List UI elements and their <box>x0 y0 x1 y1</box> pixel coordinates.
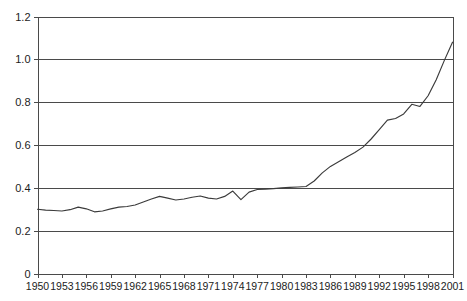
y-axis-tick-label: 0.2 <box>15 225 30 237</box>
gridlines <box>38 18 453 232</box>
data-series <box>38 42 453 212</box>
x-axis-tick-label: 1968 <box>172 280 196 292</box>
x-axis-tick-label: 1962 <box>123 280 147 292</box>
y-axis-tick-marks <box>34 18 38 275</box>
y-axis-tick-label: 1.0 <box>15 53 30 65</box>
y-axis-tick-label: 0.4 <box>15 182 30 194</box>
x-axis-tick-label: 1974 <box>221 280 245 292</box>
y-axis-tick-label: 0 <box>24 268 30 280</box>
x-axis-tick-label: 1983 <box>294 280 318 292</box>
x-axis-tick-label: 1989 <box>343 280 367 292</box>
x-axis-tick-label: 1977 <box>246 280 270 292</box>
series-line <box>38 42 453 212</box>
y-axis-tick-label: 0.8 <box>15 96 30 108</box>
x-axis-tick-label: 1995 <box>392 280 416 292</box>
x-axis-tick-label: 1965 <box>148 280 172 292</box>
x-axis-tick-label: 1992 <box>368 280 392 292</box>
y-axis-tick-label: 1.2 <box>15 11 30 23</box>
y-axis-tick-label: 0.6 <box>15 139 30 151</box>
line-chart: 00.20.40.60.81.01.2 19501953195619591962… <box>0 0 467 301</box>
x-axis-tick-label: 1956 <box>75 280 99 292</box>
x-axis-tick-label: 1998 <box>416 280 440 292</box>
x-axis-tick-label: 1980 <box>270 280 294 292</box>
y-axis-tick-labels: 00.20.40.60.81.01.2 <box>15 11 30 280</box>
x-axis-tick-label: 1953 <box>50 280 74 292</box>
x-axis-tick-label: 1986 <box>319 280 343 292</box>
x-axis-tick-label: 1959 <box>99 280 123 292</box>
chart-canvas: 00.20.40.60.81.01.2 19501953195619591962… <box>0 0 467 301</box>
x-axis-tick-label: 2001 <box>441 280 465 292</box>
x-axis-tick-label: 1950 <box>26 280 50 292</box>
x-axis-tick-label: 1971 <box>197 280 221 292</box>
x-axis-tick-labels: 1950195319561959196219651968197119741977… <box>26 280 465 292</box>
